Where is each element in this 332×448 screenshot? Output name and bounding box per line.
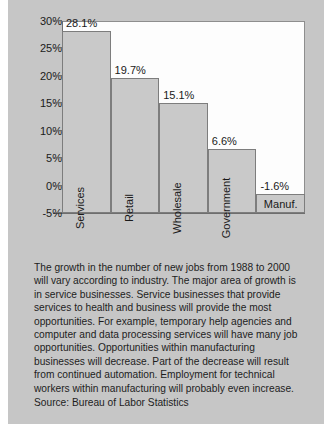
bar: Services <box>62 31 111 213</box>
y-axis-tick-label: 5% <box>18 153 62 163</box>
bar: Wholesale <box>159 103 208 213</box>
bar-category-label: Services <box>74 187 86 229</box>
y-axis-tick-mark <box>54 75 62 76</box>
y-axis-tick: 30% <box>8 16 62 26</box>
bar-value-label: 19.7% <box>115 64 146 76</box>
bar-value-label: 6.6% <box>212 135 237 147</box>
source-caption: Source: Bureau of Labor Statistics <box>34 397 306 408</box>
y-axis-tick-mark <box>54 102 62 103</box>
y-axis-tick-mark <box>54 130 62 131</box>
y-axis-tick-mark <box>54 20 62 21</box>
bar-value-label: 28.1% <box>66 17 97 29</box>
bar-value-label: 15.1% <box>163 89 194 101</box>
bar-chart: 30%25%20%15%10%5%0%-5% ServicesRetailWho… <box>8 6 324 221</box>
y-axis-tick-label: 25% <box>18 43 62 53</box>
bar: Retail <box>111 78 160 213</box>
y-axis-tick: 15% <box>8 98 62 108</box>
bar-value-label: -1.6% <box>260 180 289 192</box>
bar: Manuf. <box>256 194 305 213</box>
bar: Government <box>208 149 257 213</box>
y-axis-tick: 25% <box>8 43 62 53</box>
bar-category-label: Manuf. <box>257 198 304 210</box>
y-axis-tick-mark <box>54 185 62 186</box>
bar-category-label: Retail <box>123 194 135 222</box>
y-axis-tick: 20% <box>8 71 62 81</box>
bar-category-label: Wholesale <box>171 182 183 233</box>
y-axis-tick-label: 10% <box>18 126 62 136</box>
y-axis-tick-mark <box>54 157 62 158</box>
y-axis-tick: 0% <box>8 181 62 191</box>
y-axis-tick-label: 30% <box>18 16 62 26</box>
bar-category-label: Government <box>220 178 232 239</box>
y-axis-tick: -5% <box>8 208 62 218</box>
y-axis-tick-label: 15% <box>18 98 62 108</box>
y-axis-tick: 10% <box>8 126 62 136</box>
figure-card: 30%25%20%15%10%5%0%-5% ServicesRetailWho… <box>8 0 324 424</box>
y-axis-tick-mark <box>54 212 62 213</box>
y-axis-tick-mark <box>54 47 62 48</box>
y-axis-tick-label: 0% <box>18 181 62 191</box>
y-axis-tick: 5% <box>8 153 62 163</box>
description-paragraph: The growth in the number of new jobs fro… <box>34 261 306 395</box>
y-axis-tick-label: -5% <box>18 208 62 218</box>
y-axis-tick-label: 20% <box>18 71 62 81</box>
